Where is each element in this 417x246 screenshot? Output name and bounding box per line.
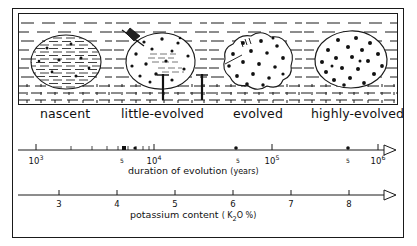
stage-panels-frame <box>18 13 398 105</box>
potassium-tick-7: 7 <box>288 199 293 209</box>
stage-panel-nascent <box>19 14 114 105</box>
duration-axis-caption: duration of evolution (years) <box>128 165 259 176</box>
stage-label-evolved: evolved <box>233 106 283 121</box>
potassium-axis-caption: potassium content ( K2O %) <box>130 209 256 223</box>
potassium-tick-5: 5 <box>172 199 177 209</box>
duration-tick-1e6: 106 <box>371 154 386 166</box>
potassium-axis-arrowhead <box>384 190 396 200</box>
duration-tick-1e5: 105 <box>265 154 280 166</box>
potassium-tick-4: 4 <box>114 199 119 209</box>
stage-label-nascent: nascent <box>40 106 90 121</box>
stage-panel-evolved <box>209 14 304 105</box>
duration-axis: 103 104 105 106 5 5 5 duration of evolut… <box>18 142 400 176</box>
potassium-axis: 3 4 5 6 7 8 potassium content ( K2O %) <box>18 188 400 222</box>
stage-label-highly-evolved: highly-evolved <box>311 106 404 121</box>
potassium-tick-3: 3 <box>56 199 61 209</box>
duration-major-ticks <box>36 144 378 150</box>
stage-label-row: nascent little-evolved evolved highly-ev… <box>18 106 398 130</box>
magma-body-outline <box>31 35 101 89</box>
magma-body-outline <box>126 33 195 89</box>
duration-minor-5b: 5 <box>236 157 240 164</box>
duration-minor-ticks <box>71 146 149 150</box>
figure-root: nascent little-evolved evolved highly-ev… <box>0 0 417 246</box>
stage-panel-little-evolved <box>114 14 209 105</box>
intrusion-arrow <box>122 28 144 46</box>
stage-label-little-evolved: little-evolved <box>121 106 204 121</box>
duration-minor-5c: 5 <box>346 157 350 164</box>
duration-tick-1e3: 103 <box>29 154 44 166</box>
duration-minor-5a: 5 <box>120 157 124 164</box>
duration-axis-arrowhead <box>384 145 396 155</box>
potassium-ticks <box>59 190 349 195</box>
potassium-tick-8: 8 <box>346 199 351 209</box>
potassium-tick-6: 6 <box>230 199 235 209</box>
stage-panel-highly-evolved <box>304 14 398 105</box>
duration-stage-markers <box>122 146 350 150</box>
